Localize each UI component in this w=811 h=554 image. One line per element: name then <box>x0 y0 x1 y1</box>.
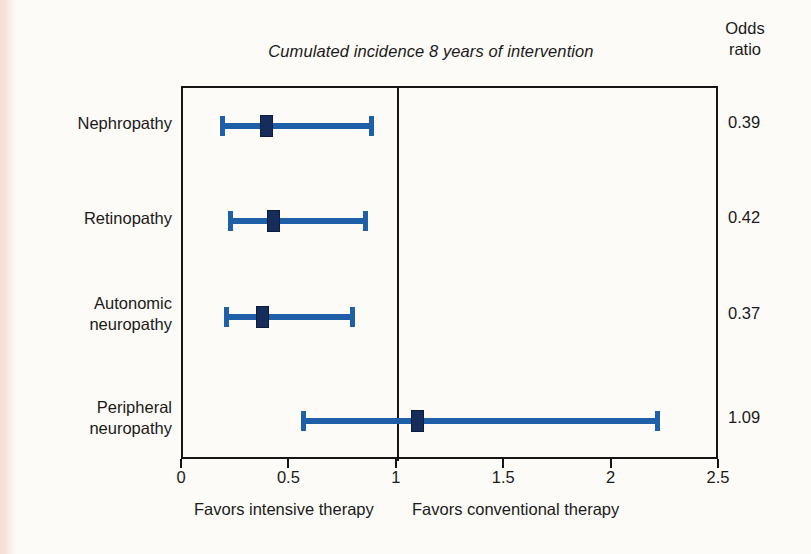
x-axis-tick <box>502 459 504 468</box>
chart-title: Cumulated incidence 8 years of intervent… <box>196 42 666 61</box>
ci-line <box>301 418 660 424</box>
odds-ratio-value: 0.42 <box>728 208 790 227</box>
point-estimate-marker <box>411 410 424 432</box>
odds-ratio-value: 0.39 <box>728 113 790 132</box>
confidence-interval-row <box>183 210 720 232</box>
x-axis-tick-label: 2 <box>581 468 641 487</box>
x-axis-tick-labels: 00.511.522.5 <box>0 468 811 492</box>
row-label-peripheral: Peripheral neuropathy <box>0 397 172 439</box>
point-estimate-marker <box>267 210 280 232</box>
x-axis-tick-label: 0.5 <box>258 468 318 487</box>
odds-ratio-column-header: Odds ratio <box>700 18 790 60</box>
ci-cap-upper <box>363 211 368 231</box>
ci-cap-lower <box>220 116 225 136</box>
ci-cap-lower <box>301 411 306 431</box>
ci-line <box>224 314 355 320</box>
odds-ratio-header-line1: Odds <box>700 18 790 39</box>
ci-cap-lower <box>224 307 229 327</box>
point-estimate-marker <box>256 306 269 328</box>
row-label-retinopathy: Retinopathy <box>0 208 172 229</box>
point-estimate-marker <box>260 115 273 137</box>
row-label-autonomic: Autonomic neuropathy <box>0 293 172 335</box>
x-axis-tick <box>180 459 182 468</box>
ci-line <box>228 218 368 224</box>
confidence-interval-row <box>183 410 720 432</box>
confidence-interval-row <box>183 115 720 137</box>
x-axis-tick <box>610 459 612 468</box>
ci-cap-upper <box>350 307 355 327</box>
plot-area <box>181 86 718 459</box>
confidence-interval-row <box>183 306 720 328</box>
favors-conventional-therapy-label: Favors conventional therapy <box>412 500 619 519</box>
row-label-nephropathy: Nephropathy <box>0 113 172 134</box>
x-axis-tick-label: 0 <box>151 468 211 487</box>
ci-line <box>220 123 375 129</box>
x-axis-tick-label: 1.5 <box>473 468 533 487</box>
ci-cap-upper <box>369 116 374 136</box>
odds-ratio-value: 0.37 <box>728 304 790 323</box>
x-axis-tick-label: 1 <box>366 468 426 487</box>
x-axis-tick <box>395 459 397 468</box>
odds-ratio-value: 1.09 <box>728 408 790 427</box>
ci-cap-lower <box>228 211 233 231</box>
favors-intensive-therapy-label: Favors intensive therapy <box>194 500 374 519</box>
ci-cap-upper <box>655 411 660 431</box>
odds-ratio-header-line2: ratio <box>700 39 790 60</box>
null-effect-line <box>397 87 399 461</box>
x-axis-tick-label: 2.5 <box>688 468 748 487</box>
x-axis-tick <box>717 459 719 468</box>
axis-footer-labels: Favors intensive therapy Favors conventi… <box>0 500 811 528</box>
forest-plot-figure: Cumulated incidence 8 years of intervent… <box>0 0 811 554</box>
x-axis-tick <box>287 459 289 468</box>
